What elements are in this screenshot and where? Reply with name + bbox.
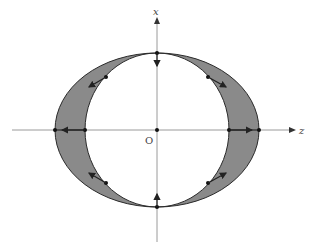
horizontal-axis-arrow-icon [289,127,296,133]
ellipse-ring-diagram: x z O [0,0,318,250]
horizontal-axis-label: z [298,125,305,136]
origin-label: O [145,135,153,146]
vertical-axis-arrow-icon [154,17,160,24]
vertical-axis-label: x [153,6,159,17]
diagram-canvas: x z O [0,0,318,250]
